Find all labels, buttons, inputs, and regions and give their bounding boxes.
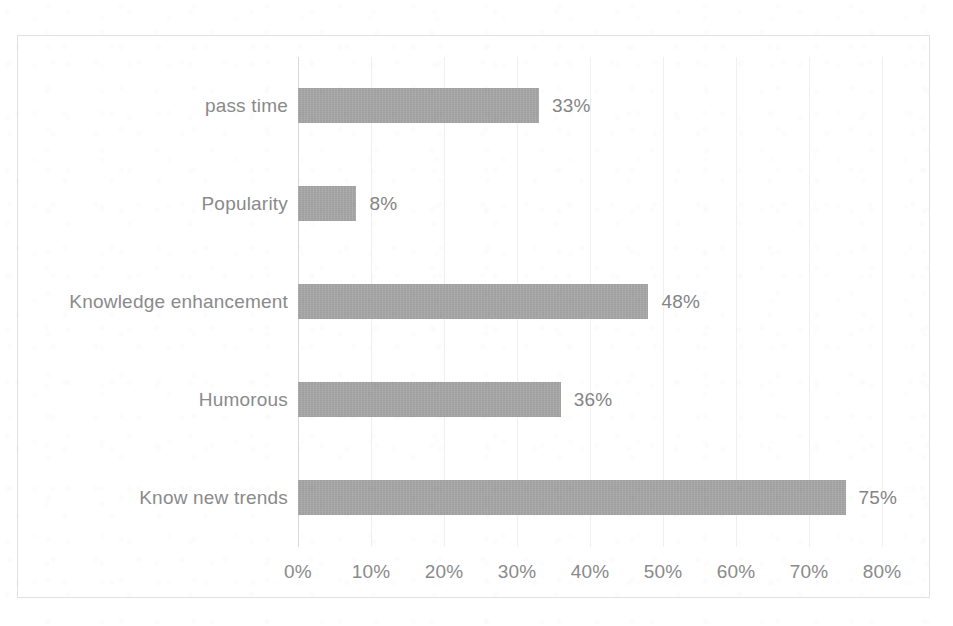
bar-row: 8%	[298, 155, 882, 253]
category-label: Know new trends	[18, 449, 288, 547]
bar	[298, 382, 561, 417]
plot-area: 33%8%48%36%75%	[298, 57, 882, 547]
bar-row: 48%	[298, 253, 882, 351]
x-tick-label: 20%	[425, 561, 464, 583]
bar-row: 33%	[298, 57, 882, 155]
x-axis-tick-labels: 0%10%20%30%40%50%60%70%80%	[298, 547, 882, 587]
category-label: pass time	[18, 57, 288, 155]
bar	[298, 186, 356, 221]
x-tick-label: 40%	[571, 561, 610, 583]
gridline	[882, 57, 883, 547]
x-tick-label: 50%	[644, 561, 683, 583]
bar-row: 36%	[298, 351, 882, 449]
bar	[298, 480, 846, 515]
x-tick-label: 70%	[790, 561, 829, 583]
x-tick-label: 60%	[717, 561, 756, 583]
category-label: Knowledge enhancement	[18, 253, 288, 351]
x-tick-label: 30%	[498, 561, 537, 583]
x-tick-label: 0%	[284, 561, 312, 583]
category-label: Popularity	[18, 155, 288, 253]
bar	[298, 284, 648, 319]
bar-data-label: 36%	[574, 382, 613, 417]
bar-row: 75%	[298, 449, 882, 547]
bar-data-label: 75%	[859, 480, 898, 515]
bar	[298, 88, 539, 123]
x-tick-label: 10%	[352, 561, 391, 583]
category-label: Humorous	[18, 351, 288, 449]
x-tick-label: 80%	[863, 561, 902, 583]
bar-data-label: 48%	[661, 284, 700, 319]
chart-plot-frame: 33%8%48%36%75% pass timePopularityKnowle…	[17, 35, 930, 598]
bar-data-label: 8%	[369, 186, 397, 221]
bar-data-label: 33%	[552, 88, 591, 123]
